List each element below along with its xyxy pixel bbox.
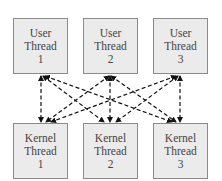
label-line1: User <box>170 27 192 40</box>
edge-u3-k1 <box>51 76 176 122</box>
user-thread-1: User Thread 1 <box>13 18 68 74</box>
edge-u2-k3 <box>111 76 176 122</box>
label-line1: User <box>30 27 52 40</box>
kernel-thread-2: Kernel Thread 2 <box>83 123 138 179</box>
label-line3: 2 <box>108 53 114 66</box>
user-thread-3: User Thread 3 <box>153 18 208 74</box>
label-line3: 3 <box>178 53 184 66</box>
kernel-thread-3: Kernel Thread 3 <box>153 123 208 179</box>
edge-u1-k2 <box>43 76 104 122</box>
edge-u2-k1 <box>46 76 109 122</box>
label-line1: User <box>100 27 122 40</box>
label-line2: Thread <box>24 145 57 158</box>
label-line3: 1 <box>38 53 44 66</box>
label-line3: 1 <box>38 158 44 171</box>
label-line3: 3 <box>178 158 184 171</box>
edge-u1-k3 <box>45 76 172 122</box>
label-line2: Thread <box>24 40 57 53</box>
edge-u3-k2 <box>116 76 178 122</box>
label-line2: Thread <box>94 145 127 158</box>
label-line2: Thread <box>164 145 197 158</box>
label-line2: Thread <box>94 40 127 53</box>
kernel-thread-1: Kernel Thread 1 <box>13 123 68 179</box>
label-line1: Kernel <box>165 132 196 145</box>
label-line1: Kernel <box>95 132 126 145</box>
label-line3: 2 <box>108 158 114 171</box>
label-line1: Kernel <box>25 132 56 145</box>
user-thread-2: User Thread 2 <box>83 18 138 74</box>
label-line2: Thread <box>164 40 197 53</box>
